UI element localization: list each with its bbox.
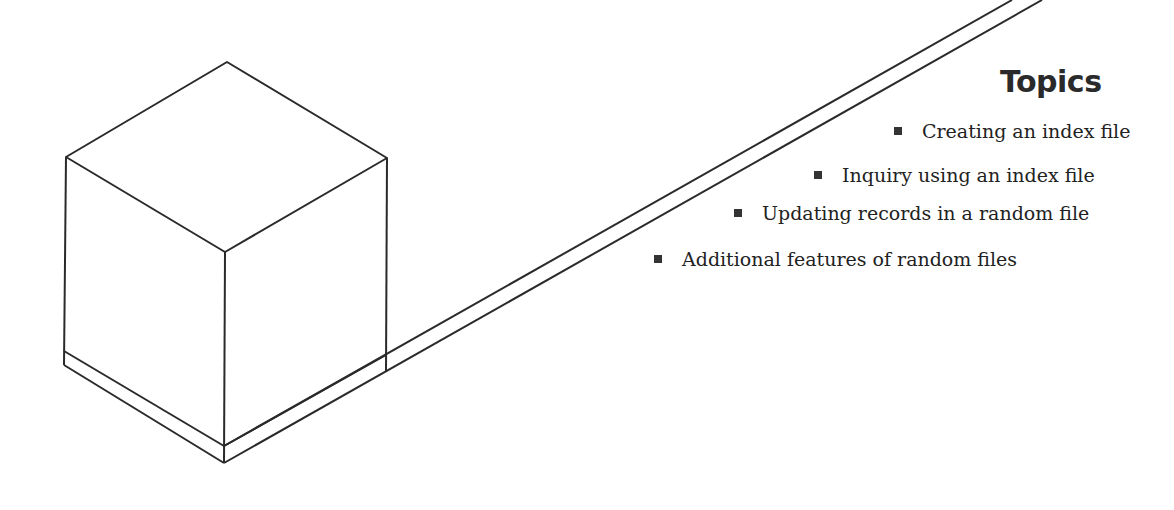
cube-top-face [66, 62, 387, 252]
square-bullet-icon [894, 127, 902, 135]
topic-item: Inquiry using an index file [814, 164, 1095, 186]
topic-item: Updating records in a random file [734, 202, 1089, 224]
topic-item: Additional features of random files [654, 248, 1017, 270]
lower-line [224, 0, 1042, 463]
topics-heading: Topics [1000, 64, 1102, 99]
square-bullet-icon [814, 171, 822, 179]
topic-item: Creating an index file [894, 120, 1130, 142]
square-bullet-icon [654, 255, 662, 263]
square-bullet-icon [734, 209, 742, 217]
